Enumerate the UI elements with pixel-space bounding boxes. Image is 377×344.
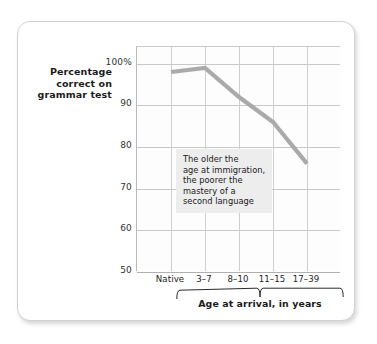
x-tick-label-3: 11–15 xyxy=(259,274,286,284)
y-tick-label-60: 60 xyxy=(98,223,132,233)
gridline-y-50 xyxy=(137,272,340,273)
x-tick-label-0: Native xyxy=(156,274,184,284)
annotation-line-3: the poorer the xyxy=(183,175,266,186)
x-tick-label-4: 17–39 xyxy=(293,274,320,284)
x-tick-label-1: 3–7 xyxy=(196,274,212,284)
y-tick-label-80: 80 xyxy=(98,140,132,150)
annotation-line-5: second language xyxy=(183,196,266,207)
y-tick-label-100: 100% xyxy=(98,57,132,67)
x-axis-tick-labels: Native3–78–1011–1517–39 xyxy=(136,274,340,288)
y-axis-tick-labels: 100%9080706050 xyxy=(96,46,132,271)
annotation-line-2: age at immigration, xyxy=(183,165,266,176)
y-tick-label-90: 90 xyxy=(98,98,132,108)
x-axis-caption: Age at arrival, in years xyxy=(176,298,344,309)
y-tick-label-70: 70 xyxy=(98,182,132,192)
x-tick-label-2: 8–10 xyxy=(227,274,248,284)
annotation-line-1: The older the xyxy=(183,154,266,165)
figure-root: Percentage correct on grammar test 100%9… xyxy=(0,0,377,344)
y-tick-label-50: 50 xyxy=(98,265,132,275)
chart-annotation: The older the age at immigration, the po… xyxy=(176,149,272,213)
annotation-line-4: mastery of a xyxy=(183,186,266,197)
